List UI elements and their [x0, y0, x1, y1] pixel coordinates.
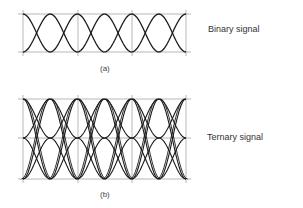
- binary-eye-grid: [18, 10, 191, 56]
- ternary-signal-label: Ternary signal: [207, 132, 263, 142]
- ternary-eye-traces: [21, 99, 187, 179]
- caption-a: (a): [100, 64, 110, 73]
- caption-b: (b): [100, 190, 110, 199]
- binary-signal-label: Binary signal: [208, 24, 260, 34]
- binary-eye-traces: [23, 14, 186, 52]
